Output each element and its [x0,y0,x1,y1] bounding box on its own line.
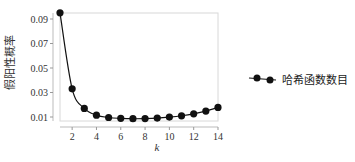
data-point [178,112,185,119]
x-tick-label: 8 [143,131,148,142]
data-point [93,112,100,119]
data-point [154,115,161,122]
y-tick-label: 0.03 [31,87,49,98]
data-point [56,9,63,16]
data-point [166,114,173,121]
y-axis-label: 假阳性概率 [3,35,17,90]
legend-label: 哈希函数数目 [282,71,348,87]
x-axis-label: k [155,141,161,153]
data-point [81,105,88,112]
plot-frame [60,13,218,121]
x-tick-label: 6 [118,131,123,142]
data-point [117,115,124,122]
x-tick-label: 12 [189,131,199,142]
x-axis: 2468101214 [60,127,223,142]
data-point [129,115,136,122]
x-tick-label: 2 [70,131,75,142]
data-point [202,108,209,115]
x-tick-label: 4 [94,131,99,142]
data-point [105,114,112,121]
data-point [190,110,197,117]
y-axis: 0.010.030.050.070.09 [31,13,54,123]
y-tick-label: 0.01 [31,112,49,123]
x-tick-label: 10 [164,131,174,142]
data-point [141,115,148,122]
data-point [69,85,76,92]
x-tick-label: 14 [213,131,223,142]
legend: 哈希函数数目 [248,71,348,87]
legend-line-marker-icon [248,73,278,85]
y-tick-label: 0.09 [31,14,49,25]
data-point [214,104,221,111]
y-tick-label: 0.07 [31,38,49,49]
data-series [56,9,221,122]
y-tick-label: 0.05 [31,63,49,74]
